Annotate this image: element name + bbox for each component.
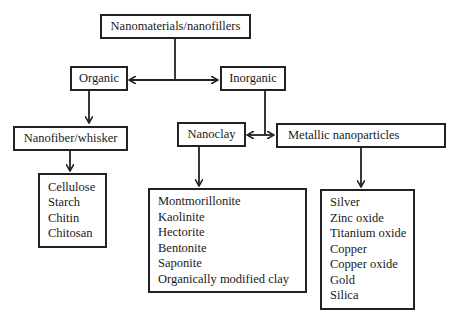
list-item: Bentonite	[158, 241, 297, 257]
node-nanomaterials: Nanomaterials/nanofillers	[100, 14, 251, 39]
node-metallic-nanoparticles: Metallic nanoparticles	[276, 123, 446, 148]
list-item: Silica	[330, 288, 405, 304]
list-item: Kaolinite	[158, 210, 297, 226]
node-label: Inorganic	[229, 71, 277, 87]
list-item: Zinc oxide	[330, 211, 405, 227]
node-label: Nanoclay	[188, 127, 236, 143]
node-label: Organic	[79, 71, 119, 87]
list-item: Chitin	[48, 211, 97, 227]
list-item: Chitosan	[48, 226, 97, 242]
list-item: Copper oxide	[330, 257, 405, 273]
node-label: Nanofiber/whisker	[24, 131, 118, 147]
list-item: Cellulose	[48, 180, 97, 196]
list-item: Silver	[330, 195, 405, 211]
list-item: Gold	[330, 273, 405, 289]
organic-materials-list: Cellulose Starch Chitin Chitosan	[38, 173, 107, 248]
list-item: Organically modified clay	[158, 272, 297, 288]
list-item: Titanium oxide	[330, 226, 405, 242]
list-item: Montmorillonite	[158, 194, 297, 210]
list-item: Saponite	[158, 256, 297, 272]
list-item: Copper	[330, 242, 405, 258]
metal-materials-list: Silver Zinc oxide Titanium oxide Copper …	[320, 189, 415, 310]
node-label: Nanomaterials/nanofillers	[111, 19, 241, 35]
list-item: Starch	[48, 195, 97, 211]
node-organic: Organic	[70, 66, 128, 91]
node-nanofiber-whisker: Nanofiber/whisker	[13, 126, 128, 151]
node-label: Metallic nanoparticles	[288, 128, 399, 144]
clay-materials-list: Montmorillonite Kaolinite Hectorite Bent…	[148, 188, 307, 293]
node-nanoclay: Nanoclay	[177, 122, 246, 147]
list-item: Hectorite	[158, 225, 297, 241]
node-inorganic: Inorganic	[220, 66, 286, 91]
